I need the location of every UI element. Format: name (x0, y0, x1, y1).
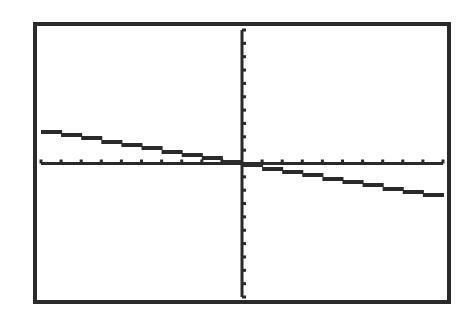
y-tick (242, 255, 246, 258)
x-tick (401, 160, 404, 164)
x-tick (381, 160, 384, 164)
x-tick (281, 160, 284, 164)
y-tick (242, 55, 246, 58)
y-tick (242, 42, 246, 45)
y-tick (242, 215, 246, 218)
x-tick (261, 160, 264, 164)
y-tick (242, 149, 246, 152)
x-tick (321, 160, 324, 164)
x-tick (301, 160, 304, 164)
y-tick (242, 229, 246, 232)
y-tick (242, 175, 246, 178)
graph-screen (0, 0, 472, 311)
x-tick (361, 160, 364, 164)
y-tick (242, 242, 246, 245)
y-tick (242, 269, 246, 272)
y-tick (242, 202, 246, 205)
x-tick (180, 160, 183, 164)
y-tick (242, 282, 246, 285)
x-tick (100, 160, 103, 164)
y-tick (242, 69, 246, 72)
x-tick (80, 160, 83, 164)
y-tick (242, 82, 246, 85)
y-tick (242, 135, 246, 138)
y-tick (242, 29, 246, 32)
x-tick (341, 160, 344, 164)
x-tick (200, 160, 203, 164)
x-tick (140, 160, 143, 164)
y-tick (242, 95, 246, 98)
y-tick (242, 122, 246, 125)
x-tick (160, 160, 163, 164)
x-tick (421, 160, 424, 164)
x-tick (442, 160, 445, 164)
y-tick (242, 296, 246, 299)
x-tick (60, 160, 63, 164)
y-tick (242, 189, 246, 192)
x-tick (120, 160, 123, 164)
y-tick (242, 109, 246, 112)
x-tick (40, 160, 43, 164)
